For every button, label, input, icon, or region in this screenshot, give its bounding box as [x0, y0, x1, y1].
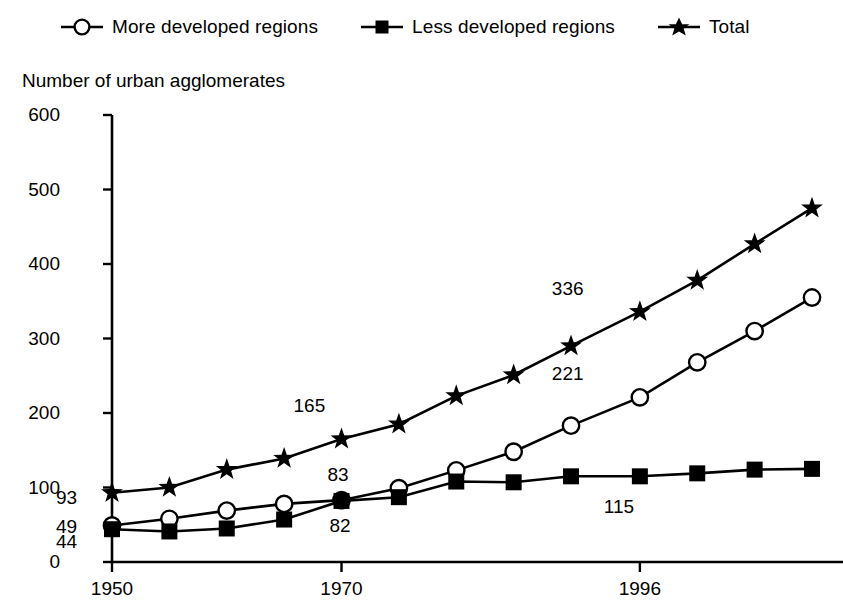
open-circle-marker [804, 289, 820, 305]
series-line [112, 298, 812, 526]
open-circle-marker [219, 502, 235, 518]
series-1-markers [104, 289, 820, 533]
data-point-label: 115 [604, 496, 634, 518]
filled-square-marker [632, 468, 648, 484]
data-point-label: 83 [328, 464, 349, 486]
open-circle-marker [632, 389, 648, 405]
series-3 [112, 208, 812, 493]
y-axis-tick-label: 200 [8, 402, 60, 424]
filled-star-marker [629, 300, 651, 321]
open-circle-marker [563, 417, 579, 433]
filled-star-marker [560, 334, 582, 355]
y-axis-tick-label: 600 [8, 104, 60, 126]
series-line [112, 208, 812, 493]
data-point-label: 336 [552, 278, 584, 300]
open-circle-marker [276, 496, 292, 512]
filled-star-marker [686, 269, 708, 290]
open-circle-marker [505, 444, 521, 460]
plot-svg [0, 0, 843, 614]
x-axis-tick-label: 1970 [302, 578, 382, 600]
filled-square-marker [334, 493, 350, 509]
urban-agglomerates-chart: More developed regions Less developed re… [0, 0, 843, 614]
filled-square-marker [104, 521, 120, 537]
filled-square-marker [161, 523, 177, 539]
y-axis-tick-label: 100 [8, 477, 60, 499]
y-axis-tick-label: 300 [8, 328, 60, 350]
open-circle-marker [746, 323, 762, 339]
filled-star-marker [503, 364, 525, 385]
filled-star-marker [216, 458, 238, 479]
axes [112, 115, 843, 562]
series-1 [112, 298, 812, 526]
filled-square-marker [219, 520, 235, 536]
filled-square-marker [506, 474, 522, 490]
filled-square-marker [391, 489, 407, 505]
filled-square-marker [448, 474, 464, 490]
filled-square-marker [747, 462, 763, 478]
data-point-label: 93 [56, 487, 77, 509]
filled-star-marker [158, 476, 180, 497]
y-axis-tick-label: 400 [8, 253, 60, 275]
open-circle-marker [689, 354, 705, 370]
series-3-markers [101, 197, 823, 502]
filled-star-marker [445, 384, 467, 405]
y-axis-tick-label: 500 [8, 179, 60, 201]
filled-star-marker [273, 447, 295, 468]
y-axis-tick-label: 0 [8, 551, 60, 573]
data-point-label: 165 [294, 395, 326, 417]
filled-square-marker [563, 468, 579, 484]
filled-star-marker [331, 428, 353, 449]
filled-star-marker [388, 413, 410, 434]
x-axis-tick-label: 1996 [600, 578, 680, 600]
x-axis-tick-label: 1950 [72, 578, 152, 600]
filled-square-marker [276, 512, 292, 528]
data-point-label: 221 [552, 363, 584, 385]
filled-square-marker [689, 465, 705, 481]
data-point-label: 44 [56, 531, 77, 553]
data-point-label: 82 [330, 515, 351, 537]
plot-area: 0100200300400500600195019701996 93494416… [0, 0, 843, 614]
filled-square-marker [804, 461, 820, 477]
